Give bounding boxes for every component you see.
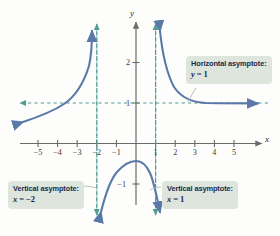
eq-rel: = [173, 194, 178, 204]
axis-y [133, 22, 140, 205]
y-tick-label: −1 [112, 180, 126, 189]
callout-title: Vertical asymptote: [167, 184, 233, 193]
callout-equation: x=1 [167, 194, 233, 205]
x-tick-label: −3 [70, 148, 84, 157]
eq-rel: = [197, 69, 202, 79]
graph-figure: x y −5 −4 −3 −2 −1 1 2 3 4 5 2 1 −1 Hori… [0, 0, 280, 236]
x-tick-label: 3 [188, 148, 202, 157]
eq-rel: = [19, 194, 24, 204]
eq-lhs: x [167, 194, 171, 204]
eq-rhs: 1 [204, 69, 208, 79]
eq-lhs: y [191, 69, 195, 79]
eq-rhs: −2 [26, 194, 35, 204]
x-tick-label: −2 [90, 148, 104, 157]
eq-rhs: 1 [180, 194, 184, 204]
x-tick-label: 5 [227, 148, 241, 157]
y-tick-label: 2 [116, 58, 130, 67]
axis-x [20, 140, 262, 147]
eq-lhs: x [13, 194, 17, 204]
callout-title: Horizontal asymptote: [191, 59, 267, 68]
y-axis-label: y [130, 8, 134, 18]
x-axis-label: x [265, 134, 269, 144]
x-tick-label: −4 [51, 148, 65, 157]
x-tick-label: 2 [168, 148, 182, 157]
leader-horizontal [188, 88, 196, 102]
callout-vertical-asymptote-right: Vertical asymptote: x=1 [162, 181, 238, 209]
y-tick-label: 1 [116, 99, 130, 108]
x-tick-label: −5 [31, 148, 45, 157]
x-tick-label: −1 [109, 148, 123, 157]
callout-equation: y=1 [191, 69, 267, 80]
x-tick-label: 1 [149, 148, 163, 157]
curve-middle-branch [101, 161, 160, 212]
x-tick-label: 4 [207, 148, 221, 157]
callout-vertical-asymptote-left: Vertical asymptote: x=−2 [8, 181, 84, 209]
callout-title: Vertical asymptote: [13, 184, 79, 193]
curve-left-branch [23, 31, 92, 122]
callout-horizontal-asymptote: Horizontal asymptote: y=1 [186, 56, 272, 84]
callout-equation: x=−2 [13, 194, 79, 205]
